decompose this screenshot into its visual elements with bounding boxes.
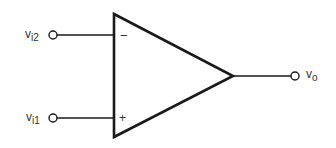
noninverting-sign: +: [119, 111, 126, 125]
inverting-sign: −: [120, 28, 128, 43]
op-amp-triangle: [114, 14, 233, 137]
output-terminal: [291, 72, 299, 80]
output-label: vo: [306, 67, 318, 83]
op-amp-diagram: − + vi2 vi1 vo: [0, 0, 336, 148]
inverting-input-label: vi2: [25, 27, 39, 43]
inverting-input-terminal: [49, 31, 57, 39]
noninverting-input-terminal: [49, 114, 57, 122]
noninverting-input-label: vi1: [26, 110, 40, 126]
